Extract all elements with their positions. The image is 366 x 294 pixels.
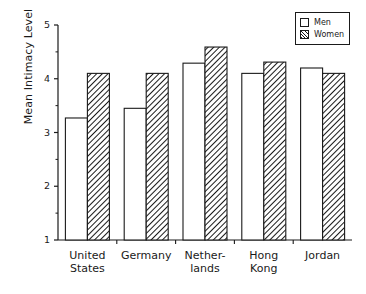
legend-swatch-women-icon bbox=[300, 30, 309, 39]
bar-series bbox=[65, 47, 344, 240]
bar-men-1 bbox=[124, 108, 146, 240]
legend-label: Men bbox=[314, 18, 331, 27]
legend-label: Women bbox=[314, 30, 344, 39]
legend-item: Women bbox=[300, 29, 344, 40]
legend: MenWomen bbox=[295, 12, 350, 45]
bar-chart: Mean Intimacy Level 12345 United StatesG… bbox=[0, 0, 366, 294]
legend-item: Men bbox=[300, 17, 344, 28]
legend-swatch-men-icon bbox=[300, 18, 309, 27]
bar-men-4 bbox=[301, 68, 323, 240]
bar-women-2 bbox=[205, 47, 227, 240]
bar-women-3 bbox=[264, 62, 286, 240]
bar-men-3 bbox=[242, 73, 264, 240]
bar-men-0 bbox=[65, 118, 87, 240]
x-axis-category-label: Jordan bbox=[278, 249, 366, 262]
bar-women-1 bbox=[146, 73, 168, 240]
bar-women-0 bbox=[87, 73, 109, 240]
bar-men-2 bbox=[183, 63, 205, 240]
bar-women-4 bbox=[323, 73, 345, 240]
